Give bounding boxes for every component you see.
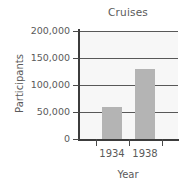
x-axis-title: Year [78,169,178,180]
gridline [79,31,178,32]
x-tick-label-1938: 1938 [125,148,165,159]
y-tick-mark [73,112,79,113]
bar-chart-figure: Cruises Participants 050,000100,000150,0… [0,0,185,187]
y-tick-label: 0 [64,134,70,144]
chart-title: Cruises [78,6,178,18]
y-axis-title: Participants [14,34,25,134]
x-tick-mark [96,139,97,146]
y-tick-mark [73,139,79,140]
y-tick-label: 150,000 [31,53,70,63]
bar-1938 [135,69,155,139]
plot-area [79,31,178,139]
x-tick-mark [162,139,163,146]
y-tick-mark [73,31,79,32]
x-tick-mark [129,139,130,146]
y-tick-mark [73,85,79,86]
y-tick-label: 200,000 [31,26,70,36]
gridline [79,112,178,113]
gridline [79,58,178,59]
y-tick-label: 100,000 [31,80,70,90]
bar-1934 [102,107,122,139]
y-tick-mark [73,58,79,59]
y-tick-label: 50,000 [37,107,70,117]
gridline [79,85,178,86]
